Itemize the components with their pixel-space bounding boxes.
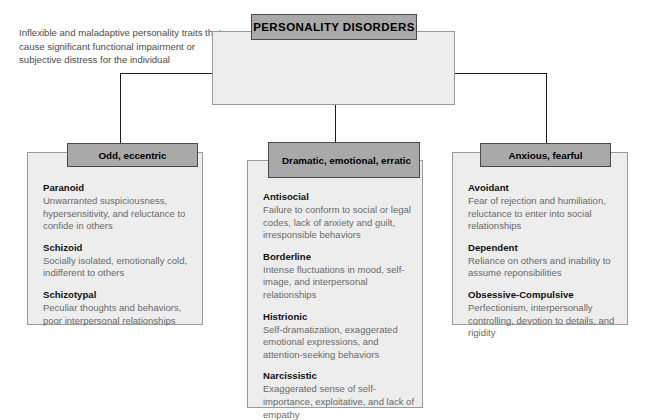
disorder-entry: Antisocial Failure to conform to social … bbox=[263, 190, 415, 242]
cluster-header-anxious-fearful: Anxious, fearful bbox=[480, 143, 611, 167]
cluster-body-dramatic-emotional-erratic: Antisocial Failure to conform to social … bbox=[263, 190, 415, 420]
cluster-header-label: Anxious, fearful bbox=[508, 150, 582, 161]
root-description-panel bbox=[212, 31, 455, 105]
cluster-header-label: Dramatic, emotional, erratic bbox=[282, 155, 411, 166]
disorder-entry: Obsessive-Compulsive Perfectionism, inte… bbox=[468, 288, 623, 340]
disorder-description: Reliance on others and inability to assu… bbox=[468, 255, 623, 280]
disorder-entry: Schizoid Socially isolated, emotionally … bbox=[43, 241, 195, 280]
connector-left-horizontal bbox=[120, 73, 213, 74]
disorder-description: Exaggerated sense of self-importance, ex… bbox=[263, 383, 415, 420]
cluster-body-odd-eccentric: Paranoid Unwarranted suspiciousness, hyp… bbox=[43, 181, 195, 327]
root-title-box: PERSONALITY DISORDERS bbox=[251, 14, 417, 40]
disorder-entry: Schizotypal Peculiar thoughts and behavi… bbox=[43, 288, 195, 327]
cluster-header-odd-eccentric: Odd, eccentric bbox=[67, 143, 198, 167]
disorder-entry: Histrionic Self-dramatization, exaggerat… bbox=[263, 310, 415, 362]
disorder-name: Avoidant bbox=[468, 181, 623, 194]
root-description-text: Inflexible and maladaptive personality t… bbox=[19, 26, 231, 67]
disorder-entry: Borderline Intense fluctuations in mood,… bbox=[263, 250, 415, 302]
disorder-name: Paranoid bbox=[43, 181, 195, 194]
disorder-description: Failure to conform to social or legal co… bbox=[263, 204, 415, 242]
disorder-entry: Narcissistic Exaggerated sense of self-i… bbox=[263, 369, 415, 420]
connector-middle-vertical bbox=[335, 104, 336, 144]
cluster-header-label: Odd, eccentric bbox=[98, 150, 166, 161]
disorder-description: Socially isolated, emotionally cold, ind… bbox=[43, 255, 195, 280]
disorder-description: Intense fluctuations in mood, self-image… bbox=[263, 264, 415, 302]
disorder-name: Schizotypal bbox=[43, 288, 195, 301]
disorder-entry: Dependent Reliance on others and inabili… bbox=[468, 241, 623, 280]
connector-left-vertical bbox=[120, 73, 121, 144]
root-title-label: PERSONALITY DISORDERS bbox=[253, 21, 415, 33]
disorder-entry: Avoidant Fear of rejection and humiliati… bbox=[468, 181, 623, 233]
personality-disorders-diagram: Inflexible and maladaptive personality t… bbox=[0, 0, 660, 420]
cluster-body-anxious-fearful: Avoidant Fear of rejection and humiliati… bbox=[468, 181, 623, 340]
disorder-name: Obsessive-Compulsive bbox=[468, 288, 623, 301]
cluster-header-dramatic-emotional-erratic: Dramatic, emotional, erratic bbox=[268, 142, 420, 178]
disorder-name: Borderline bbox=[263, 250, 415, 263]
connector-right-horizontal bbox=[454, 73, 547, 74]
disorder-description: Peculiar thoughts and behaviors, poor in… bbox=[43, 302, 195, 327]
disorder-name: Dependent bbox=[468, 241, 623, 254]
disorder-name: Narcissistic bbox=[263, 369, 415, 382]
disorder-name: Histrionic bbox=[263, 310, 415, 323]
disorder-name: Schizoid bbox=[43, 241, 195, 254]
connector-right-vertical bbox=[546, 73, 547, 144]
disorder-description: Perfectionism, interpersonally controlli… bbox=[468, 302, 623, 340]
disorder-description: Self-dramatization, exaggerated emotiona… bbox=[263, 324, 415, 362]
disorder-description: Unwarranted suspiciousness, hypersensiti… bbox=[43, 195, 195, 233]
disorder-name: Antisocial bbox=[263, 190, 415, 203]
disorder-description: Fear of rejection and humiliation, reluc… bbox=[468, 195, 623, 233]
disorder-entry: Paranoid Unwarranted suspiciousness, hyp… bbox=[43, 181, 195, 233]
